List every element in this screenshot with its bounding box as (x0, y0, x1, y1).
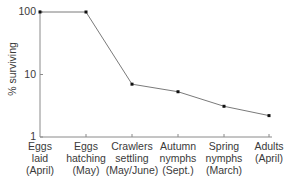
survival-line (40, 12, 269, 116)
data-point-marker (223, 105, 226, 108)
y-tick-label: 10 (6, 68, 36, 80)
data-point-marker (268, 114, 271, 117)
x-category-label: Adults(April) (241, 140, 295, 164)
data-point-marker (131, 83, 134, 86)
y-tick-label: 100 (6, 5, 36, 17)
data-point-marker (177, 90, 180, 93)
data-point-marker (85, 11, 88, 14)
data-point-marker (39, 11, 42, 14)
data-markers (39, 11, 271, 118)
